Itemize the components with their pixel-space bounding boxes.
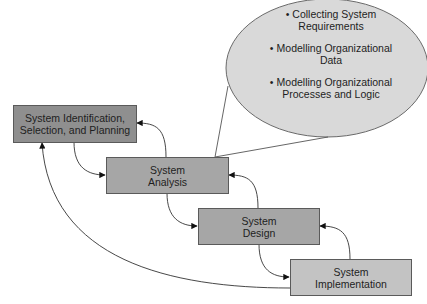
phase-identification: System Identification, Selection, and Pl… [13, 105, 137, 143]
bullet-icon: • [286, 8, 290, 20]
phase-implementation: System Implementation [290, 259, 412, 296]
arrow-identification-to-analysis [74, 142, 105, 175]
callout-text: •Collecting System Requirements •Modelli… [244, 8, 418, 110]
phase-identification-line2: Selection, and Planning [20, 124, 130, 136]
bullet-icon: • [270, 76, 274, 88]
phase-design: System Design [198, 208, 320, 245]
arrow-analysis-to-design [167, 193, 197, 226]
phase-analysis-line2: Analysis [148, 176, 187, 188]
callout-pointer-line-bottom [215, 137, 328, 157]
callout-item: •Modelling Organizational Processes and … [244, 76, 418, 100]
arrow-design-to-analysis [229, 175, 258, 208]
arrow-analysis-to-identification [137, 123, 166, 157]
phase-identification-line1: System Identification, [20, 112, 130, 124]
callout-item: •Modelling Organizational Data [244, 42, 418, 66]
bullet-icon: • [270, 42, 274, 54]
callout-item: •Collecting System Requirements [244, 8, 418, 32]
arrow-implementation-to-design [320, 226, 350, 259]
arrow-design-to-implementation [259, 244, 289, 277]
phase-implementation-line2: Implementation [315, 278, 387, 290]
phase-design-line2: Design [241, 227, 276, 239]
phase-implementation-line1: System [315, 266, 387, 278]
phase-analysis: System Analysis [106, 157, 229, 194]
phase-analysis-line1: System [148, 164, 187, 176]
phase-design-line1: System [241, 215, 276, 227]
callout-pointer-line-left [215, 86, 228, 157]
